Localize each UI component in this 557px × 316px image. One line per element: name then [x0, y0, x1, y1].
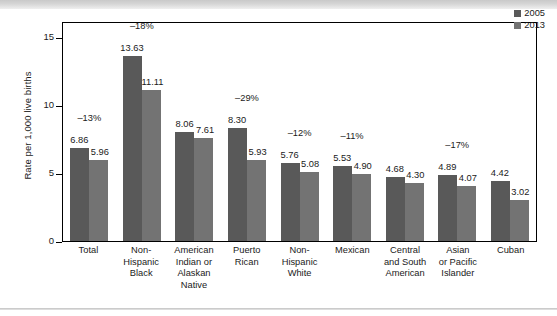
x-axis-label-line: Total	[62, 245, 115, 257]
percent-change-label: –29%	[235, 93, 259, 103]
bar-value-label: 11.11	[142, 77, 164, 87]
plot-area: –13%6.865.96–18%13.6311.118.067.61–29%8.…	[62, 22, 537, 242]
bar-2005-mexican[interactable]: 5.53	[333, 166, 352, 241]
legend-label: 2005	[524, 8, 545, 18]
x-axis-label: Non-HispanicBlack	[115, 245, 168, 311]
y-tick-label: 5	[32, 167, 54, 178]
bar-value-label: 4.07	[459, 173, 477, 183]
figure: Rate per 1,000 live births –13%6.865.96–…	[0, 0, 557, 316]
x-axis-label: Asianor PacificIslander	[431, 245, 484, 311]
bar-2013-puerto-rican[interactable]: 5.93	[247, 160, 266, 241]
bar-2005-non-hispanic-black[interactable]: 13.63	[123, 56, 142, 241]
page-top-band	[0, 0, 557, 9]
percent-change-label: –13%	[77, 113, 101, 123]
bar-group[interactable]: –18%13.6311.11	[116, 23, 169, 241]
bar-2013-asian-or-pacific-islander[interactable]: 4.07	[457, 186, 476, 241]
bar-group[interactable]: –13%6.865.96	[63, 23, 116, 241]
x-axis-label-line: Puerto	[220, 245, 273, 257]
bar-value-label: 7.61	[196, 125, 214, 135]
bar-group[interactable]: 4.423.02	[484, 23, 537, 241]
legend-entry-2005[interactable]: 2005	[514, 8, 545, 18]
percent-change-label: –12%	[288, 128, 312, 138]
y-tick-mark	[56, 174, 62, 175]
bar-2005-central-and-south-american[interactable]: 4.68	[386, 177, 405, 241]
x-axis-label: AmericanIndian orAlaskanNative	[168, 245, 221, 311]
x-axis-label-line: Asian	[431, 245, 484, 257]
x-axis-label-line: American	[379, 268, 432, 280]
x-axis-label-line: Indian or	[168, 257, 221, 269]
bar-2013-american-indian-or-alaskan-native[interactable]: 7.61	[194, 138, 213, 241]
bar-value-label: 3.02	[511, 187, 529, 197]
y-tick-label: 15	[32, 31, 54, 42]
x-axis-label: PuertoRican	[220, 245, 273, 311]
x-axis-label-line: Cuban	[484, 245, 537, 257]
bar-2005-puerto-rican[interactable]: 8.30	[228, 128, 247, 241]
legend-label: 2013	[524, 20, 545, 30]
bar-value-label: 5.53	[333, 153, 351, 163]
x-axis-label-line: Islander	[431, 268, 484, 280]
bar-group[interactable]: –11%5.534.90	[326, 23, 379, 241]
x-axis-label-line: Black	[115, 268, 168, 280]
bar-group[interactable]: 4.684.30	[378, 23, 431, 241]
x-axis-label-line: Central	[379, 245, 432, 257]
bar-group[interactable]: –29%8.305.93	[221, 23, 274, 241]
x-axis-label: Cuban	[484, 245, 537, 311]
bar-2005-asian-or-pacific-islander[interactable]: 4.89	[438, 175, 457, 241]
x-axis-label-line: Mexican	[326, 245, 379, 257]
bar-2013-non-hispanic-white[interactable]: 5.08	[300, 172, 319, 241]
x-axis-label: Total	[62, 245, 115, 311]
bar-group[interactable]: –12%5.765.08	[273, 23, 326, 241]
legend-swatch	[514, 10, 521, 17]
bar-value-label: 8.06	[175, 119, 193, 129]
bar-value-label: 5.08	[301, 159, 319, 169]
percent-change-label: –18%	[130, 21, 154, 31]
x-axis-label: Non-HispanicWhite	[273, 245, 326, 311]
bar-value-label: 4.68	[386, 164, 404, 174]
x-axis-label-line: Native	[168, 280, 221, 292]
bar-2013-cuban[interactable]: 3.02	[510, 200, 529, 241]
x-axis-label-line: White	[273, 268, 326, 280]
bar-value-label: 5.76	[281, 150, 299, 160]
legend-swatch	[514, 22, 521, 29]
x-axis-label: Centraland SouthAmerican	[379, 245, 432, 311]
chart-legend: 20052013	[514, 8, 545, 32]
bar-value-label: 13.63	[120, 43, 143, 53]
y-axis-title: Rate per 1,000 live births	[22, 36, 33, 216]
bar-2005-cuban[interactable]: 4.42	[491, 181, 510, 241]
bar-value-label: 6.86	[70, 135, 88, 145]
bar-2005-total[interactable]: 6.86	[70, 148, 89, 241]
x-axis-label-line: and South	[379, 257, 432, 269]
x-axis-label-line: Rican	[220, 257, 273, 269]
bar-value-label: 4.90	[354, 161, 372, 171]
x-axis-labels: TotalNon-HispanicBlackAmericanIndian orA…	[62, 245, 537, 311]
x-axis-label-line: Alaskan	[168, 268, 221, 280]
bar-groups: –13%6.865.96–18%13.6311.118.067.61–29%8.…	[63, 23, 536, 241]
bar-2013-non-hispanic-black[interactable]: 11.11	[142, 90, 161, 241]
bar-value-label: 4.89	[438, 162, 456, 172]
bar-2005-non-hispanic-white[interactable]: 5.76	[281, 163, 300, 241]
x-axis-label-line: Non-	[273, 245, 326, 257]
y-tick-label: 0	[32, 235, 54, 246]
bar-2013-central-and-south-american[interactable]: 4.30	[405, 183, 424, 241]
y-tick-mark	[56, 106, 62, 107]
bar-value-label: 5.96	[91, 147, 109, 157]
bar-value-label: 4.30	[406, 170, 424, 180]
bar-2013-mexican[interactable]: 4.90	[352, 174, 371, 241]
y-tick-label: 10	[32, 99, 54, 110]
bar-value-label: 8.30	[228, 115, 246, 125]
bar-2005-american-indian-or-alaskan-native[interactable]: 8.06	[175, 132, 194, 241]
legend-entry-2013[interactable]: 2013	[514, 20, 545, 30]
bar-group[interactable]: –17%4.894.07	[431, 23, 484, 241]
x-axis-label-line: Non-	[115, 245, 168, 257]
y-tick-mark	[56, 242, 62, 243]
bar-2013-total[interactable]: 5.96	[89, 160, 108, 241]
bar-group[interactable]: 8.067.61	[168, 23, 221, 241]
x-axis-label: Mexican	[326, 245, 379, 311]
y-tick-mark	[56, 38, 62, 39]
bar-value-label: 5.93	[249, 147, 267, 157]
x-axis-label-line: or Pacific	[431, 257, 484, 269]
x-axis-label-line: Hispanic	[115, 257, 168, 269]
bar-value-label: 4.42	[491, 168, 509, 178]
x-axis-label-line: Hispanic	[273, 257, 326, 269]
percent-change-label: –17%	[445, 140, 469, 150]
